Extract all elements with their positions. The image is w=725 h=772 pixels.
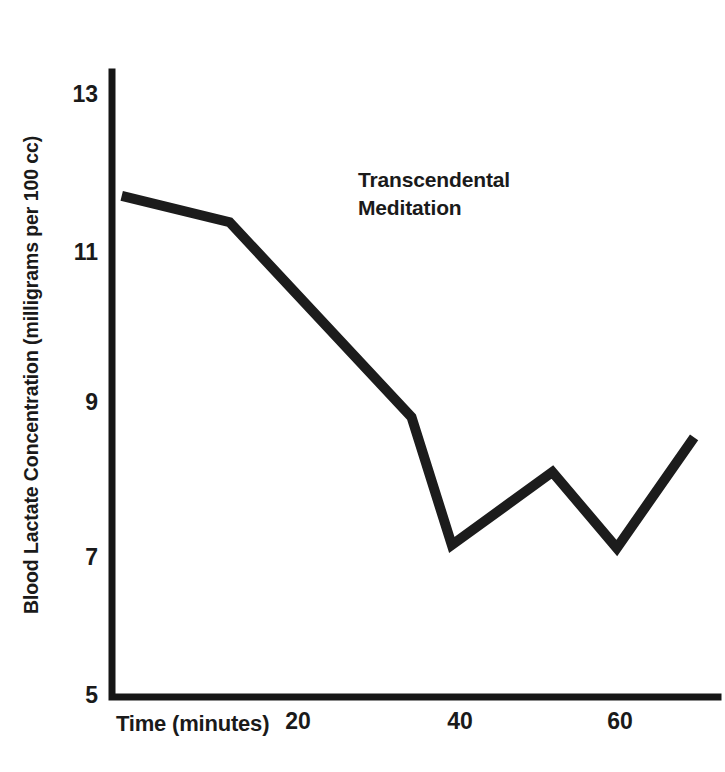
axis-spines: [112, 72, 718, 697]
data-line-transcendental-meditation: [122, 196, 694, 548]
chart-figure: Blood Lactate Concentration (milligrams …: [0, 0, 725, 772]
plot-area: [0, 0, 725, 772]
